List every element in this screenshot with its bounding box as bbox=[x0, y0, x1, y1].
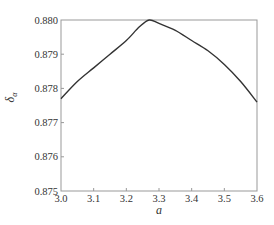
x-axis-label: a bbox=[156, 203, 162, 217]
data-line bbox=[61, 20, 257, 102]
y-axis-label: δα bbox=[3, 92, 19, 103]
y-tick-label: 0.878 bbox=[34, 83, 58, 94]
plot-frame bbox=[61, 20, 257, 191]
x-tick-label: 3.4 bbox=[185, 193, 199, 204]
y-axis-ticks: 0.8750.8760.8770.8780.8790.880 bbox=[34, 15, 64, 197]
x-axis-ticks: 3.03.13.23.33.43.53.6 bbox=[54, 188, 263, 204]
x-tick-label: 3.1 bbox=[87, 193, 100, 204]
line-chart: 3.03.13.23.33.43.53.6 0.8750.8760.8770.8… bbox=[0, 0, 274, 225]
x-tick-label: 3.2 bbox=[120, 193, 133, 204]
y-tick-label: 0.875 bbox=[34, 186, 58, 197]
x-tick-label: 3.5 bbox=[218, 193, 231, 204]
y-tick-label: 0.876 bbox=[34, 151, 58, 162]
y-tick-label: 0.877 bbox=[34, 117, 58, 128]
y-axis-label-sub: α bbox=[10, 92, 19, 97]
x-tick-label: 3.6 bbox=[250, 193, 263, 204]
y-tick-label: 0.880 bbox=[34, 15, 58, 26]
y-tick-label: 0.879 bbox=[34, 49, 58, 60]
